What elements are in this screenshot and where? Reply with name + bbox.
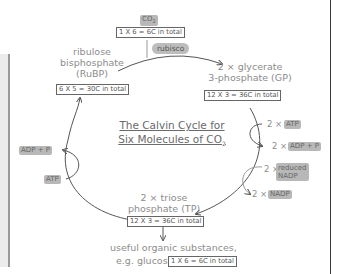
gp-label: 2 × glycerate 3-phosphate (GP) — [200, 62, 300, 84]
cycle-title: The Calvin Cycle for Six Molecules of CO… — [117, 118, 227, 148]
nadp-multiplier: 2 × — [252, 189, 267, 199]
rubisco-enzyme: rubisco — [152, 43, 189, 54]
atp-input: ATP — [284, 120, 301, 129]
nadp-output: NADP — [268, 190, 292, 199]
left-adp-output: ADP + P — [19, 146, 52, 155]
adp-output: ADP + P — [288, 142, 321, 151]
glucose-label: e.g. glucose — [116, 256, 173, 267]
tp-total-box: 12 X 3 = 36C in total — [127, 216, 204, 227]
glucose-total-box: 1 X 6 = 6C in total — [168, 256, 237, 267]
rubp-total-box: 6 X 5 = 30C in total — [56, 84, 129, 95]
tp-label: 2 × triose phosphate (TP) — [114, 193, 214, 215]
left-atp-input: ATP — [44, 175, 61, 184]
output-label: useful organic substances, — [110, 243, 237, 254]
co2-total-box: 1 X 6 = 6C in total — [116, 27, 185, 38]
rubp-label: ribulose bisphosphate (RuBP) — [52, 47, 132, 80]
adp-multiplier: 2 × — [272, 141, 287, 151]
gp-total-box: 12 X 3 = 36C in total — [204, 90, 281, 101]
nadph-input: reduced NADP — [276, 163, 309, 181]
atp-multiplier: 2 × — [267, 119, 282, 129]
co2-label: CO2 — [140, 15, 158, 26]
